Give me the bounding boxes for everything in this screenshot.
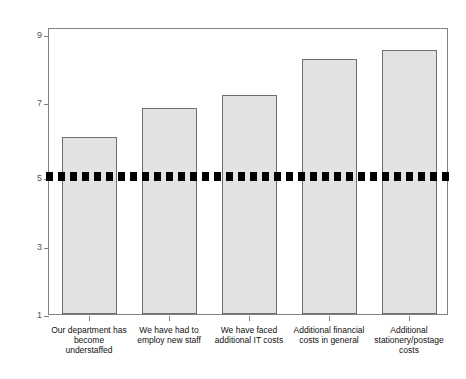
x-category-line: stationery/postage — [374, 335, 443, 345]
x-category-line: Additional — [390, 325, 427, 335]
x-tick-0 — [89, 316, 90, 321]
bar-additional-it-costs — [222, 95, 277, 314]
x-tick-2 — [249, 316, 250, 321]
bar-understaffed — [62, 137, 117, 314]
x-category-line: employ new staff — [137, 335, 201, 345]
x-category-line: We have had to — [139, 325, 198, 335]
bar-employ-new-staff — [142, 108, 197, 314]
x-tick-3 — [329, 316, 330, 321]
y-tick-label: 1 — [37, 309, 42, 322]
x-category-line: understaffed — [65, 345, 112, 355]
y-tick-label: 7 — [37, 97, 42, 110]
x-category-label-3: Additional financialcosts in general — [289, 325, 369, 345]
y-tick-mark — [44, 316, 49, 317]
x-category-line: Additional financial — [294, 325, 365, 335]
x-category-line: costs — [399, 345, 419, 355]
y-tick-label: 9 — [37, 29, 42, 42]
plot-area: 9 7 5 3 1 Our depart — [48, 28, 448, 315]
y-tick-9: 9 — [33, 36, 49, 37]
x-category-line: become — [74, 335, 104, 345]
bar-chart-figure: Mean (1 = disagree, 9 = agree) 9 7 5 3 1 — [0, 0, 466, 379]
x-category-line: Our department has — [51, 325, 127, 335]
x-category-line: costs in general — [299, 335, 359, 345]
x-category-line: We have faced — [221, 325, 278, 335]
y-tick-3: 3 — [33, 248, 49, 249]
reference-line-at-5 — [46, 172, 452, 181]
y-tick-mark — [44, 104, 49, 105]
x-tick-4 — [409, 316, 410, 321]
y-tick-mark — [44, 248, 49, 249]
x-tick-1 — [169, 316, 170, 321]
x-category-line: additional IT costs — [215, 335, 283, 345]
y-tick-mark — [44, 36, 49, 37]
x-category-label-2: We have facedadditional IT costs — [209, 325, 289, 345]
bar-stationery-postage-costs — [382, 50, 437, 314]
x-category-label-4: Additionalstationery/postagecosts — [369, 325, 449, 355]
bar-additional-financial-costs — [302, 59, 357, 315]
y-tick-label: 3 — [37, 241, 42, 254]
x-category-label-1: We have had toemploy new staff — [129, 325, 209, 345]
y-tick-7: 7 — [33, 104, 49, 105]
y-tick-1: 1 — [33, 316, 49, 317]
x-category-label-0: Our department hasbecomeunderstaffed — [49, 325, 129, 355]
y-tick-label: 5 — [37, 172, 42, 185]
